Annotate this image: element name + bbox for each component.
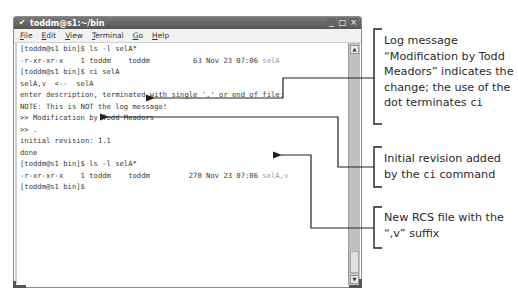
filename-highlight: selA (262, 56, 279, 65)
menu-label: ile (24, 31, 33, 40)
terminal-output[interactable]: [toddm@s1 bin]$ ls -l selA* -r-xr-xr-x 1… (15, 43, 352, 284)
annotation-rcs-file: New RCS file with the “,v” suffix (384, 210, 518, 241)
filename-highlight: selA,v (262, 171, 288, 180)
vertical-scrollbar[interactable]: ▲ ▼ (348, 43, 360, 285)
terminal-line: selA,v <-- selA (20, 79, 94, 89)
terminal-line: done (20, 148, 37, 158)
annotation-text: Log message “Modification by Todd Meador… (384, 34, 514, 109)
menu-label: o (138, 31, 143, 40)
terminal-line: >> Modification by Todd Meadors (20, 113, 154, 123)
menu-edit[interactable]: Edit (42, 31, 57, 40)
title-bar[interactable]: ✔ toddm@s1:~/bin _ □ × (14, 17, 361, 29)
annotation-code: ci (470, 96, 483, 108)
menu-file[interactable]: File (20, 31, 33, 40)
annotation-initial-revision: Initial revision added by the ci command (384, 151, 518, 182)
menu-label: erminal (95, 31, 123, 40)
terminal-line: [toddm@s1 bin]$ (20, 182, 85, 192)
menu-bar: File Edit View Terminal Go Help (14, 29, 361, 43)
window-corner (349, 279, 362, 288)
minimize-icon[interactable]: _ (327, 18, 336, 27)
annotation-log-message: Log message “Modification by Todd Meador… (384, 33, 518, 111)
terminal-line: [toddm@s1 bin]$ ls -l selA* (20, 159, 137, 169)
menu-label: elp (158, 31, 169, 40)
close-icon[interactable]: × (349, 18, 358, 27)
window-title: toddm@s1:~/bin (30, 19, 104, 28)
scrollbar-thumb[interactable] (350, 251, 359, 273)
maximize-icon[interactable]: □ (338, 18, 347, 27)
annotation-code: ci (423, 168, 436, 180)
terminal-line: -r-xr-xr-x 1 toddm toddm 63 Nov 23 07:06… (20, 56, 280, 66)
terminal-line: -r-xr-xr-x 1 toddm toddm 270 Nov 23 07:0… (20, 171, 288, 181)
terminal-line-text: -r-xr-xr-x 1 toddm toddm 270 Nov 23 07:0… (20, 171, 262, 180)
window-menu-chevron-icon[interactable]: ✔ (17, 18, 27, 28)
terminal-line: [toddm@s1 bin]$ ls -l selA* (20, 44, 137, 54)
terminal-line: >> . (20, 125, 37, 135)
menu-label: dit (46, 31, 56, 40)
scroll-up-arrow-icon[interactable]: ▲ (350, 45, 359, 54)
terminal-line: enter description, terminated with singl… (20, 90, 284, 100)
menu-label: iew (70, 31, 83, 40)
menu-terminal[interactable]: Terminal (92, 31, 124, 40)
annotation-text: command (436, 168, 495, 181)
annotation-text: New RCS file with the “,v” suffix (384, 211, 504, 240)
menu-help[interactable]: Help (152, 31, 169, 40)
terminal-line-text: -r-xr-xr-x 1 toddm toddm 63 Nov 23 07:06 (20, 56, 262, 65)
menu-view[interactable]: View (65, 31, 83, 40)
terminal-line: [toddm@s1 bin]$ ci selA (20, 67, 120, 77)
terminal-line: NOTE: This is NOT the log message! (20, 102, 167, 112)
terminal-line: initial revision: 1.1 (20, 136, 111, 146)
window-corner (13, 281, 26, 288)
terminal-window: ✔ toddm@s1:~/bin _ □ × File Edit View Te… (13, 16, 362, 288)
menu-go[interactable]: Go (133, 31, 143, 40)
